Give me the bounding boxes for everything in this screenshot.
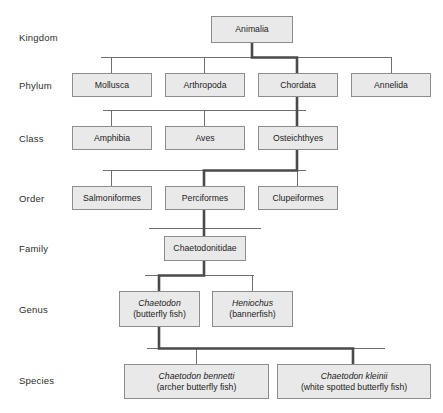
node-animalia-label: Animalia: [235, 24, 268, 35]
rank-label-order: Order: [19, 194, 44, 204]
taxonomy-diagram: Kingdom Phylum Class Order Family Genus …: [0, 0, 443, 413]
node-chaetodon-bennetti[interactable]: Chaetodon bennetti (archer butterfly fis…: [124, 364, 269, 399]
rank-label-species: Species: [19, 376, 54, 386]
node-salmoniformes-label: Salmoniformes: [83, 193, 141, 204]
node-aves-label: Aves: [195, 133, 214, 144]
node-chordata-label: Chordata: [280, 80, 316, 91]
node-annelida[interactable]: Annelida: [351, 73, 431, 97]
node-chaetodon-kleinii-sci-name: Chaetodon kleinii: [321, 371, 388, 382]
node-arthropoda-label: Arthropoda: [184, 80, 227, 91]
node-annelida-label: Annelida: [374, 80, 408, 91]
node-osteichthyes[interactable]: Osteichthyes: [258, 126, 338, 150]
node-osteichthyes-label: Osteichthyes: [273, 133, 323, 144]
node-heniochus-sci-name: Heniochus: [232, 298, 273, 309]
node-chaetodon-sci-name: Chaetodon: [138, 298, 181, 309]
rank-label-kingdom: Kingdom: [19, 33, 58, 43]
node-clupeiformes-label: Clupeiformes: [272, 193, 323, 204]
node-arthropoda[interactable]: Arthropoda: [165, 73, 245, 97]
node-chaetodon-kleinii-common-name: (white spotted butterfly fish): [301, 382, 407, 393]
highlight-animalia-to-chordata: [252, 43, 297, 73]
node-chaetodonitidae-label: Chaetodonitidae: [173, 243, 236, 254]
node-chordata[interactable]: Chordata: [258, 73, 338, 97]
node-animalia[interactable]: Animalia: [211, 16, 293, 43]
highlight-osteichthyes-to-perciformes: [204, 150, 297, 186]
node-amphibia-label: Amphibia: [94, 133, 130, 144]
node-heniochus[interactable]: Heniochus (bannerfish): [212, 291, 293, 327]
node-mollusca[interactable]: Mollusca: [72, 73, 152, 97]
node-clupeiformes[interactable]: Clupeiformes: [258, 186, 338, 210]
node-heniochus-common-name: (bannerfish): [229, 309, 275, 320]
node-chaetodonitidae[interactable]: Chaetodonitidae: [164, 236, 246, 261]
node-chaetodon-common-name: (butterfly fish): [133, 309, 186, 320]
node-amphibia[interactable]: Amphibia: [72, 126, 152, 150]
rank-label-phylum: Phylum: [19, 81, 52, 91]
node-perciformes[interactable]: Perciformes: [165, 186, 245, 210]
node-perciformes-label: Perciformes: [182, 193, 228, 204]
highlight-family-to-chaetodon: [159, 261, 204, 291]
node-salmoniformes[interactable]: Salmoniformes: [72, 186, 152, 210]
node-chaetodon-bennetti-common-name: (archer butterfly fish): [157, 382, 237, 393]
rank-label-class: Class: [19, 134, 44, 144]
node-chaetodon[interactable]: Chaetodon (butterfly fish): [119, 291, 200, 327]
rank-label-genus: Genus: [19, 305, 48, 315]
node-mollusca-label: Mollusca: [95, 80, 129, 91]
node-aves[interactable]: Aves: [165, 126, 245, 150]
node-chaetodon-bennetti-sci-name: Chaetodon bennetti: [159, 371, 235, 382]
highlight-chaetodon-to-kleinii: [159, 327, 353, 364]
node-chaetodon-kleinii[interactable]: Chaetodon kleinii (white spotted butterf…: [277, 364, 431, 399]
rank-label-family: Family: [19, 244, 48, 254]
